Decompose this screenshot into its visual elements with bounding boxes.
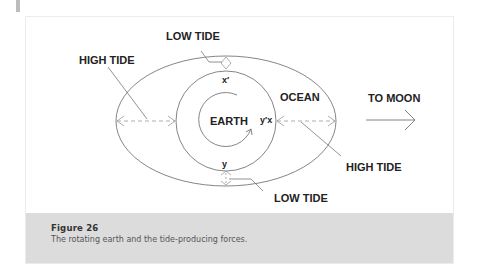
- label-low-tide-top: LOW TIDE: [166, 30, 220, 42]
- leader-high-tide-left: [108, 67, 147, 119]
- label-high-tide-right: HIGH TIDE: [346, 161, 402, 173]
- leader-high-tide-right: [301, 122, 341, 156]
- figure-frame: LOW TIDE HIGH TIDE x′ OCEAN EARTH y′x TO…: [25, 16, 454, 264]
- label-ocean: OCEAN: [280, 91, 320, 103]
- caption-title: Figure 26: [51, 223, 98, 233]
- top-low-tide-marker: [221, 57, 231, 69]
- tide-diagram: LOW TIDE HIGH TIDE x′ OCEAN EARTH y′x TO…: [1, 1, 477, 229]
- label-point-y: y: [222, 159, 227, 169]
- label-earth: EARTH: [210, 115, 248, 127]
- label-low-tide-bottom: LOW TIDE: [274, 192, 328, 204]
- label-point-y-prime-x: y′x: [260, 115, 272, 125]
- label-to-moon: TO MOON: [368, 92, 420, 104]
- figure-caption: Figure 26 The rotating earth and the tid…: [26, 213, 453, 263]
- label-high-tide-left: HIGH TIDE: [79, 54, 135, 66]
- label-point-x-prime: x′: [222, 75, 229, 85]
- caption-text: The rotating earth and the tide-producin…: [51, 235, 247, 244]
